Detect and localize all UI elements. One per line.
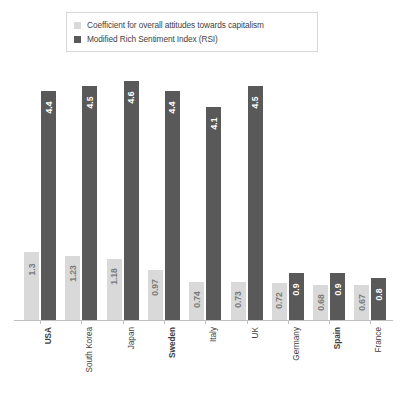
bar-value-label: 0.67 [357,294,366,311]
legend-item-rsi: Modified Rich Sentiment Index (RSI) [74,32,311,46]
bar-value-label: 0.9 [292,284,301,296]
bar-rsi[interactable]: 0.8 [371,278,386,320]
bar-value-label: 0.72 [275,292,284,309]
bar-chart: Coefficient for overall attitudes toward… [0,0,405,397]
x-axis-tick [288,320,289,324]
bar-coefficient[interactable]: 0.74 [189,282,204,320]
bar-value-label: 4.5 [85,97,94,109]
bar-group: 0.670.8 [354,60,386,320]
x-axis-label-germany: Germany [292,327,301,361]
bar-rsi[interactable]: 4.1 [206,107,221,320]
bar-coefficient[interactable]: 0.68 [313,285,328,320]
bar-value-label: 1.3 [27,264,36,276]
bar-group: 0.680.9 [313,60,345,320]
bar-value-label: 4.5 [251,97,260,109]
legend-label-coefficient: Coefficient for overall attitudes toward… [87,21,264,30]
x-axis-tick [164,320,165,324]
legend-label-rsi: Modified Rich Sentiment Index (RSI) [87,35,218,44]
x-axis-label-usa: USA [44,327,53,344]
bar-coefficient[interactable]: 0.73 [231,282,246,320]
x-axis-tick [370,320,371,324]
bar-group: 1.184.6 [107,60,139,320]
legend-swatch-dark-icon [74,36,81,43]
bar-coefficient[interactable]: 0.67 [354,285,369,320]
x-axis-tick [247,320,248,324]
x-axis-label-uk: UK [251,327,260,338]
bar-group: 0.720.9 [272,60,304,320]
x-axis-label-italy: Italy [209,327,218,342]
bar-value-label: 0.9 [333,284,342,296]
bar-coefficient[interactable]: 1.23 [65,256,80,320]
bar-group: 1.34.4 [24,60,56,320]
bar-group: 0.974.4 [148,60,180,320]
bar-value-label: 0.73 [234,291,243,308]
plot-area: 1.34.41.234.51.184.60.974.40.744.10.734.… [14,60,392,320]
bar-rsi[interactable]: 4.4 [165,91,180,320]
bar-value-label: 4.6 [127,91,136,103]
x-axis-tick [40,320,41,324]
chart-legend: Coefficient for overall attitudes toward… [66,12,318,52]
bar-value-label: 0.68 [316,294,325,311]
bar-value-label: 0.74 [192,291,201,308]
x-axis-tick [329,320,330,324]
legend-item-coefficient: Coefficient for overall attitudes toward… [74,18,311,32]
bar-value-label: 4.1 [209,117,218,129]
bar-group: 0.734.5 [231,60,263,320]
bar-rsi[interactable]: 4.6 [124,81,139,320]
x-axis-label-south-korea: South Korea [85,327,94,373]
x-axis-label-spain: Spain [333,327,342,349]
bar-rsi[interactable]: 0.9 [330,273,345,320]
bar-rsi[interactable]: 0.9 [289,273,304,320]
bar-coefficient[interactable]: 1.18 [107,259,122,320]
x-axis-label-sweden: Sweden [168,327,177,358]
bar-value-label: 4.4 [44,102,53,114]
bar-value-label: 0.97 [151,279,160,296]
bar-value-label: 1.18 [110,268,119,285]
bar-value-label: 0.8 [374,289,383,301]
x-axis-tick [81,320,82,324]
bar-coefficient[interactable]: 1.3 [24,252,39,320]
bar-coefficient[interactable]: 0.72 [272,283,287,320]
x-axis-tick [123,320,124,324]
bar-rsi[interactable]: 4.5 [82,86,97,320]
bar-group: 1.234.5 [65,60,97,320]
x-axis-tick [205,320,206,324]
bar-group: 0.744.1 [189,60,221,320]
bar-rsi[interactable]: 4.4 [41,91,56,320]
bar-coefficient[interactable]: 0.97 [148,270,163,320]
legend-swatch-light-icon [74,22,81,29]
x-axis-line [14,320,393,321]
bar-value-label: 4.4 [168,102,177,114]
bar-value-label: 1.23 [68,265,77,282]
x-axis-label-japan: Japan [127,327,136,349]
x-axis-label-france: France [374,327,383,352]
bar-rsi[interactable]: 4.5 [248,86,263,320]
